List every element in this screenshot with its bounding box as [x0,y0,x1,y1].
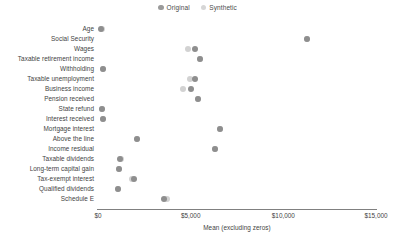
x-axis-tick-label: $0 [94,212,101,220]
y-axis-label: Taxable retirement income [0,56,94,62]
data-point[interactable] [99,106,105,112]
data-point[interactable] [115,186,121,192]
x-axis-tick-label: $10,000 [272,212,295,220]
y-axis-label: State refund [0,106,94,112]
chart-legend: Original Synthetic [0,4,395,11]
data-point[interactable] [131,176,137,182]
y-axis-label: Social Security [0,36,94,42]
x-axis-line [97,209,377,210]
x-axis-tick-label: $15,000 [364,212,387,220]
data-point[interactable] [195,96,201,102]
y-axis-labels: AgeSocial SecurityWagesTaxable retiremen… [0,24,94,210]
data-point[interactable] [192,46,198,52]
x-axis-title: Mean (excluding zeros) [98,224,376,231]
y-axis-label: Withholding [0,66,94,72]
y-axis-label: Interest received [0,116,94,122]
data-point[interactable] [197,56,203,62]
data-point[interactable] [161,196,167,202]
y-axis-label: Taxable unemployment [0,76,94,82]
y-axis-label: Taxable dividends [0,156,94,162]
legend-item-original[interactable]: Original [158,4,190,11]
y-axis-label: Qualified dividends [0,186,94,192]
y-axis-label: Above the line [0,136,94,142]
data-point[interactable] [117,156,123,162]
data-point[interactable] [304,36,310,42]
data-point[interactable] [116,166,122,172]
plot-area [98,24,376,210]
y-axis-label: Mortgage interest [0,126,94,132]
y-axis-label: Age [0,26,94,32]
data-point[interactable] [217,126,223,132]
y-axis-label: Business income [0,86,94,92]
x-axis-ticks: $0$5,000$10,000$15,000 [98,212,376,224]
y-axis-label: Pension received [0,96,94,102]
legend-label-synthetic: Synthetic [209,4,237,11]
scatter-chart: Original Synthetic AgeSocial SecurityWag… [0,0,395,244]
x-axis-tick-label: $5,000 [181,212,201,220]
legend-label-original: Original [167,4,190,11]
data-point[interactable] [134,136,140,142]
y-axis-label: Long-term capital gain [0,166,94,172]
data-point[interactable] [192,76,198,82]
y-axis-label: Wages [0,46,94,52]
y-axis-label: Schedule E [0,196,94,202]
y-axis-label: Income residual [0,146,94,152]
data-point[interactable] [180,86,186,92]
data-point[interactable] [100,66,106,72]
y-axis-label: Tax-exempt interest [0,176,94,182]
data-point[interactable] [188,86,194,92]
data-point[interactable] [98,26,104,32]
data-point[interactable] [212,146,218,152]
data-point[interactable] [100,116,106,122]
legend-swatch-original-icon [158,5,164,11]
legend-item-synthetic[interactable]: Synthetic [201,4,237,11]
data-point[interactable] [185,46,191,52]
legend-swatch-synthetic-icon [201,5,207,11]
